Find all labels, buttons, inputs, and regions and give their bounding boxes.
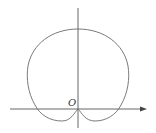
x-axis-arrow-icon [140,107,147,112]
origin-label: O [68,97,76,108]
polar-curve-diagram: O [0,0,156,133]
